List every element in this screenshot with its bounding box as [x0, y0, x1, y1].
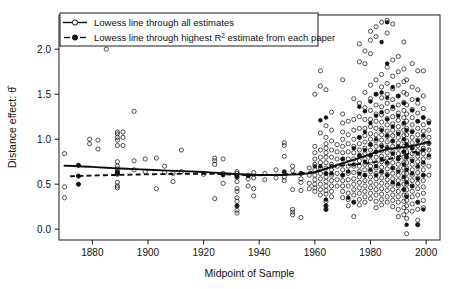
data-point-open — [391, 74, 395, 78]
data-point-open — [385, 81, 389, 85]
data-point-open — [357, 180, 361, 184]
data-point-open — [368, 52, 372, 56]
data-point-filled — [385, 62, 389, 66]
data-point-open — [380, 197, 384, 201]
data-point-filled — [391, 85, 395, 89]
data-point-filled — [396, 132, 400, 136]
data-point-open — [221, 181, 225, 185]
data-point-open — [410, 209, 414, 213]
data-point-open — [341, 189, 345, 193]
data-point-open — [341, 78, 345, 82]
scatter-plot: 18801900192019401960198020000.00.51.01.5… — [0, 0, 463, 289]
data-point-open — [416, 218, 420, 222]
data-point-open — [352, 193, 356, 197]
data-point-filled — [318, 164, 322, 168]
data-point-open — [363, 90, 367, 94]
data-point-open — [352, 97, 356, 101]
data-point-open — [87, 142, 91, 146]
data-point-open — [391, 115, 395, 119]
data-point-filled — [405, 168, 409, 172]
data-point-open — [368, 148, 372, 152]
data-point-filled — [357, 135, 361, 139]
axes-layer: 18801900192019401960198020000.00.51.01.5… — [6, 15, 440, 279]
data-point-filled — [410, 130, 414, 134]
data-point-open — [324, 146, 328, 150]
data-point-open — [352, 188, 356, 192]
data-point-open — [368, 180, 372, 184]
data-point-open — [346, 178, 350, 182]
data-point-open — [324, 142, 328, 146]
legend-label: Lowess line through highest R2 estimate … — [94, 32, 335, 43]
data-point-open — [299, 188, 303, 192]
data-point-open — [410, 195, 414, 199]
data-point-open — [352, 117, 356, 121]
data-point-open — [396, 189, 400, 193]
data-point-filled — [368, 168, 372, 172]
data-point-open — [402, 67, 406, 71]
data-point-open — [402, 40, 406, 44]
data-point-open — [104, 47, 108, 51]
data-point-open — [352, 182, 356, 186]
data-point-open — [405, 112, 409, 116]
data-point-open — [416, 160, 420, 164]
data-point-open — [391, 193, 395, 197]
data-point-open — [324, 135, 328, 139]
data-point-open — [115, 143, 119, 147]
data-point-open — [363, 179, 367, 183]
data-point-open — [363, 200, 367, 204]
data-point-open — [357, 126, 361, 130]
data-point-open — [171, 179, 175, 183]
data-point-open — [318, 188, 322, 192]
data-point-open — [380, 85, 384, 89]
data-point-filled — [410, 159, 414, 163]
data-point-open — [341, 144, 345, 148]
data-point-open — [396, 118, 400, 122]
data-point-filled — [324, 198, 328, 202]
data-point-open — [427, 173, 431, 177]
data-point-open — [405, 216, 409, 220]
data-point-open — [427, 164, 431, 168]
data-point-open — [368, 132, 372, 136]
data-point-open — [341, 137, 345, 141]
data-point-open — [318, 131, 322, 135]
data-point-filled — [380, 170, 384, 174]
data-point-open — [374, 206, 378, 210]
data-point-open — [121, 130, 125, 134]
data-point-filled — [380, 40, 384, 44]
data-point-open — [380, 105, 384, 109]
data-point-filled — [318, 118, 322, 122]
data-point-filled — [385, 117, 389, 121]
data-point-open — [421, 123, 425, 127]
data-point-open — [421, 69, 425, 73]
data-point-open — [421, 94, 425, 98]
data-point-filled — [405, 180, 409, 184]
data-point-open — [380, 192, 384, 196]
data-point-open — [416, 170, 420, 174]
data-point-open — [368, 186, 372, 190]
data-point-open — [416, 111, 420, 115]
data-point-filled — [421, 116, 425, 120]
data-point-open — [391, 205, 395, 209]
data-point-open — [374, 78, 378, 82]
data-point-open — [385, 123, 389, 127]
data-point-open — [313, 144, 317, 148]
data-point-filled — [357, 105, 361, 109]
data-point-open — [385, 31, 389, 35]
data-point-open — [329, 189, 333, 193]
data-point-open — [410, 135, 414, 139]
data-point-open — [324, 155, 328, 159]
data-point-open — [410, 202, 414, 206]
data-point-open — [391, 98, 395, 102]
data-point-filled — [396, 114, 400, 118]
data-point-filled — [380, 90, 384, 94]
data-point-filled — [357, 171, 361, 175]
data-point-open — [313, 157, 317, 161]
data-point-filled — [385, 20, 389, 24]
y-tick-label: 2.0 — [37, 44, 51, 55]
data-point-filled — [385, 161, 389, 165]
data-point-filled — [352, 146, 356, 150]
data-point-open — [329, 195, 333, 199]
data-point-open — [380, 133, 384, 137]
data-point-filled — [380, 128, 384, 132]
data-point-open — [391, 22, 395, 26]
